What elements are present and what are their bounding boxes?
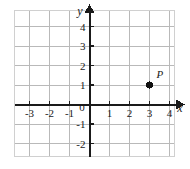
- x-tick-label: 3: [147, 107, 153, 119]
- x-tick-label: -3: [25, 107, 35, 119]
- y-tick-label: 4: [80, 21, 86, 33]
- x-tick-label: -2: [45, 107, 54, 119]
- coordinate-grid-svg: -3-2-11234 4321-1-2 0 x y P: [0, 0, 190, 169]
- y-tick-label: -1: [76, 118, 85, 130]
- x-tick-label: -1: [65, 107, 74, 119]
- x-axis-label: x: [176, 101, 183, 115]
- origin-label: 0: [79, 101, 85, 113]
- x-tick-label: 2: [127, 107, 133, 119]
- data-point-label: P: [156, 68, 164, 80]
- x-tick-label: 1: [107, 107, 113, 119]
- data-point: [146, 81, 153, 88]
- coordinate-plane-figure: -3-2-11234 4321-1-2 0 x y P: [0, 0, 190, 169]
- y-tick-label: -2: [76, 138, 85, 150]
- y-tick-label: 1: [80, 79, 86, 91]
- y-tick-label: 3: [80, 40, 86, 52]
- y-axis-label: y: [76, 4, 83, 18]
- y-tick-label: 2: [80, 60, 86, 72]
- x-tick-label: 4: [167, 107, 173, 119]
